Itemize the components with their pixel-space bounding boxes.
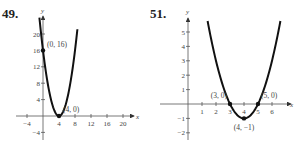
- x-axis-label: x: [289, 101, 294, 109]
- y-tick-label: −1: [178, 115, 186, 123]
- point-label: (4, 0): [63, 105, 80, 114]
- point-label: (3, 0): [211, 91, 228, 100]
- y-tick-label: 5: [182, 29, 186, 37]
- x-tick-label: 2: [214, 108, 218, 116]
- x-tick-label: 5: [256, 108, 260, 116]
- y-tick-label: 8: [37, 80, 41, 88]
- parabola-curve: [39, 18, 77, 116]
- x-tick-label: 4: [242, 108, 246, 116]
- graph-49: x y −448121620 20161284−4 (0, 16)(4, 0): [16, 7, 140, 140]
- x-tick-label: 6: [270, 108, 274, 116]
- y-tick-label: 12: [33, 63, 41, 71]
- point-label: (0, 16): [47, 40, 67, 49]
- x-tick-label: 1: [200, 108, 204, 116]
- point-label: (4, −1): [234, 123, 255, 132]
- y-tick-label: −2: [178, 129, 186, 137]
- x-tick-label: 12: [88, 120, 96, 128]
- data-point: [57, 114, 61, 118]
- x-tick-label: 8: [73, 120, 77, 128]
- y-tick-label: 2: [182, 72, 186, 80]
- x-tick-label: 3: [228, 108, 232, 116]
- y-tick-label: 16: [33, 47, 41, 55]
- x-tick-label: 20: [120, 120, 128, 128]
- graph-51: x y 123456 54321−1−2 (3, 0)(5, 0)(4, −1): [160, 8, 294, 140]
- x-tick-label: −4: [23, 120, 31, 128]
- y-tick-label: 3: [182, 57, 186, 65]
- data-point: [41, 48, 45, 52]
- y-axis-label: y: [185, 8, 190, 16]
- x-tick-label: 4: [57, 120, 61, 128]
- data-point: [256, 102, 260, 106]
- x-tick-label: 16: [104, 120, 112, 128]
- point-label: (5, 0): [261, 91, 278, 100]
- y-tick-label: −4: [33, 129, 41, 137]
- y-tick-label: 1: [182, 86, 186, 94]
- y-axis-label: y: [40, 7, 45, 15]
- graphs-canvas: x y −448121620 20161284−4 (0, 16)(4, 0) …: [0, 0, 295, 146]
- x-axis-label: x: [135, 113, 140, 121]
- data-point: [228, 102, 232, 106]
- y-tick-label: 4: [182, 43, 186, 51]
- y-tick-label: 20: [33, 31, 41, 39]
- data-point: [242, 116, 246, 120]
- y-tick-label: 4: [37, 96, 41, 104]
